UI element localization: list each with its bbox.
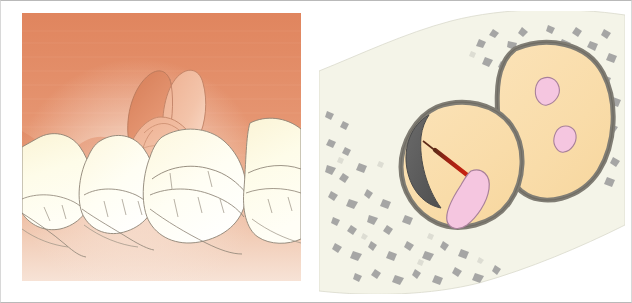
- distal-molar: [244, 118, 301, 243]
- mesial-root-section: [401, 102, 522, 228]
- panel-clinical-intraoral-view: [22, 13, 301, 281]
- figure-frame: [0, 0, 632, 303]
- cross-section-illustration: [319, 11, 625, 294]
- panel-root-cross-section-view: [319, 11, 625, 294]
- clinical-illustration: [22, 13, 301, 281]
